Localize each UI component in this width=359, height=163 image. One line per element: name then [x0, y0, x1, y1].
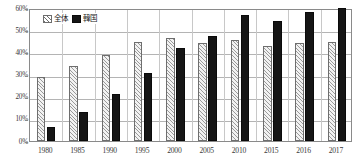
y-tick-mark [25, 53, 28, 54]
legend-label-overall: 全体 [54, 14, 67, 23]
category-separator [224, 10, 225, 141]
bar-korea [241, 15, 250, 141]
category-separator [256, 10, 257, 141]
bar-overall [102, 55, 111, 141]
x-tick-label: 1980 [29, 146, 61, 155]
bar-overall [134, 42, 143, 141]
x-tick-label: 2005 [191, 146, 223, 155]
y-tick-mark [25, 76, 28, 77]
category-separator [159, 10, 160, 141]
y-tick-mark [25, 142, 28, 143]
category-separator [321, 10, 322, 141]
x-tick-label: 2017 [320, 146, 352, 155]
plot-area [29, 9, 352, 142]
bar-korea [112, 94, 121, 141]
category-separator [192, 10, 193, 141]
bar-korea [144, 73, 153, 141]
bar-korea [305, 12, 314, 141]
y-tick-mark [25, 31, 28, 32]
legend-item-overall: 全体 [43, 14, 67, 23]
category-separator [95, 10, 96, 141]
bar-korea [47, 127, 56, 141]
bar-overall [37, 77, 46, 141]
x-tick-label: 2000 [158, 146, 190, 155]
bar-overall [69, 66, 78, 141]
bar-korea [208, 36, 217, 141]
hatched-swatch-icon [43, 15, 52, 23]
x-tick-label: 2016 [287, 146, 319, 155]
bar-chart: 0%10%20%30%40%50%60% 1980198519901995200… [0, 0, 359, 163]
category-separator [127, 10, 128, 141]
bar-korea [176, 48, 185, 141]
category-separator [288, 10, 289, 141]
chart-legend: 全体 韓国 [40, 13, 100, 24]
black-swatch-icon [72, 15, 81, 23]
legend-item-korea: 韓国 [72, 14, 96, 23]
y-tick-mark [25, 120, 28, 121]
bar-overall [295, 43, 304, 141]
bar-overall [328, 42, 337, 141]
bar-korea [273, 21, 282, 141]
y-tick-mark [25, 98, 28, 99]
legend-label-korea: 韓国 [83, 14, 96, 23]
y-tick-mark [25, 9, 28, 10]
bar-korea [338, 8, 347, 141]
bar-overall [231, 40, 240, 141]
bar-korea [79, 112, 88, 141]
bar-overall [198, 43, 207, 141]
x-tick-label: 1990 [94, 146, 126, 155]
bar-overall [166, 38, 175, 141]
bar-overall [263, 46, 272, 141]
x-tick-label: 2010 [223, 146, 255, 155]
x-tick-label: 2015 [255, 146, 287, 155]
category-separator [62, 10, 63, 141]
x-tick-label: 1995 [126, 146, 158, 155]
gridline [30, 32, 351, 33]
x-tick-label: 1985 [61, 146, 93, 155]
